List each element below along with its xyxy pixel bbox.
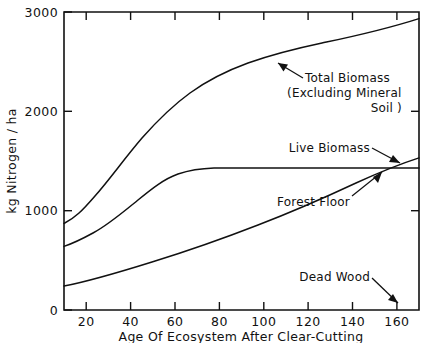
chart-canvas: 0 1000 2000 3000 20 40 60 80 100 120 140…: [0, 0, 433, 343]
curve-forest-floor: [64, 168, 419, 246]
x-tick-label-60: 60: [167, 314, 184, 329]
x-axis-title: Age Of Ecosystem After Clear-Cutting: [119, 329, 364, 343]
y-tick-label-3000: 3000: [25, 5, 58, 20]
x-tick-label-120: 120: [296, 314, 321, 329]
y-tick-label-0: 0: [50, 303, 58, 318]
plot-frame: [64, 12, 419, 310]
y-tick-label-2000: 2000: [25, 104, 58, 119]
y-axis-title: kg Nitrogen / ha: [4, 108, 19, 213]
x-tick-label-100: 100: [251, 314, 276, 329]
chart-figure: 0 1000 2000 3000 20 40 60 80 100 120 140…: [0, 0, 433, 343]
annotation-live-biomass: Live Biomass: [289, 141, 400, 163]
curve-live-biomass: [64, 158, 419, 286]
total-biomass-label-line2: (Excluding Mineral: [287, 86, 402, 100]
x-tick-label-40: 40: [122, 314, 139, 329]
curve-total-biomass: [64, 19, 419, 224]
dead-wood-label: Dead Wood: [299, 270, 370, 284]
x-tick-label-80: 80: [211, 314, 228, 329]
annotation-forest-floor: Forest Floor: [277, 172, 382, 209]
y-tick-label-1000: 1000: [25, 203, 58, 218]
x-tick-label-140: 140: [340, 314, 365, 329]
y-axis-ticks: [64, 12, 419, 310]
total-biomass-label-line1: Total Biomass: [304, 71, 390, 85]
annotation-total-biomass: Total Biomass (Excluding Mineral Soil ): [278, 63, 402, 115]
x-axis-ticks: [86, 12, 397, 310]
x-tick-label-160: 160: [384, 314, 409, 329]
live-biomass-label: Live Biomass: [289, 141, 370, 155]
live-biomass-arrowhead: [389, 155, 400, 163]
total-biomass-arrowhead: [278, 63, 288, 72]
annotation-dead-wood: Dead Wood: [299, 270, 398, 303]
forest-floor-label: Forest Floor: [277, 195, 350, 209]
x-tick-label-20: 20: [78, 314, 95, 329]
total-biomass-label-line3: Soil ): [371, 101, 402, 115]
